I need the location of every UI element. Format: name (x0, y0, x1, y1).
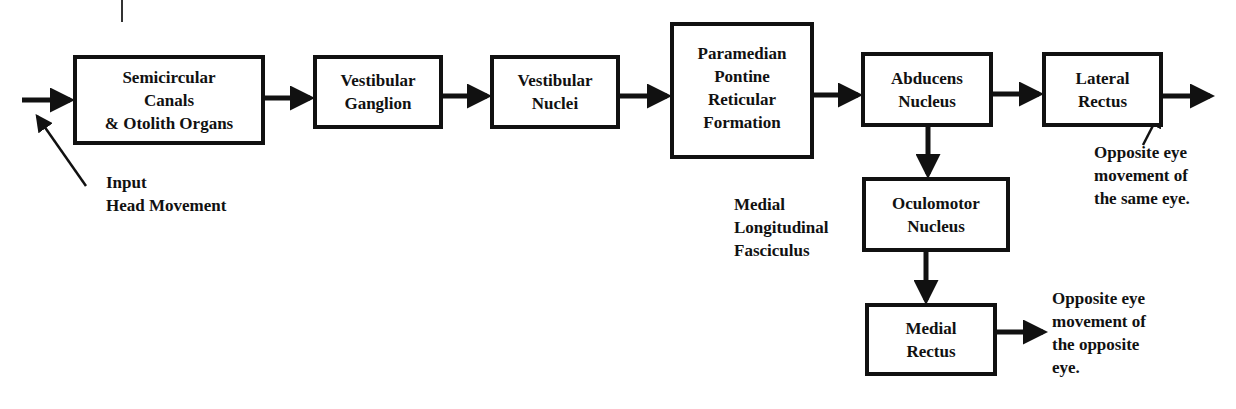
node-vestibular-ganglion: Vestibular Ganglion (313, 55, 443, 129)
node-label: Semicircular Canals & Otolith Organs (105, 66, 233, 135)
node-label: Vestibular Ganglion (341, 69, 416, 115)
node-label: Paramedian Pontine Reticular Formation (698, 42, 787, 134)
node-vestibular-nuclei: Vestibular Nuclei (490, 55, 620, 129)
node-oculomotor-nucleus: Oculomotor Nucleus (862, 177, 1010, 252)
node-label: Abducens Nucleus (891, 67, 963, 113)
node-label: Lateral Rectus (1076, 67, 1130, 113)
label-input-head-movement: Input Head Movement (106, 171, 226, 217)
node-label: Oculomotor Nucleus (892, 192, 980, 238)
node-pprf: Paramedian Pontine Reticular Formation (670, 22, 814, 159)
node-label: Vestibular Nuclei (518, 69, 593, 115)
label-mlf: Medial Longitudinal Fasciculus (734, 193, 829, 262)
label-opposite-eye: Opposite eye movement of the opposite ey… (1052, 287, 1146, 379)
node-semicircular-canals: Semicircular Canals & Otolith Organs (73, 55, 265, 145)
node-lateral-rectus: Lateral Rectus (1042, 52, 1163, 127)
node-medial-rectus: Medial Rectus (865, 303, 997, 376)
label-same-eye: Opposite eye movement of the same eye. (1094, 141, 1190, 210)
node-label: Medial Rectus (906, 317, 957, 363)
node-abducens-nucleus: Abducens Nucleus (861, 52, 993, 127)
